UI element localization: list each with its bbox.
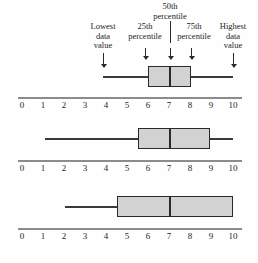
axis-1-tick-4: 4 xyxy=(104,100,109,111)
axis-2-tick-2: 2 xyxy=(62,163,67,174)
axis-1-tick-9: 9 xyxy=(209,100,214,111)
axis-3-tick-10: 10 xyxy=(229,231,238,242)
axis-2-tick-6: 6 xyxy=(146,163,151,174)
axis-line-2 xyxy=(18,160,242,162)
box-plot-1 xyxy=(0,64,258,90)
axis-2-tick-10: 10 xyxy=(229,163,238,174)
box-2 xyxy=(138,128,210,149)
axis-1-tick-5: 5 xyxy=(125,100,130,111)
axis-1-tick-1: 1 xyxy=(41,100,46,111)
axis-2-tick-7: 7 xyxy=(167,163,172,174)
arrow-75th-percentile xyxy=(191,48,192,59)
box-3 xyxy=(117,196,233,217)
axis-2-tick-1: 1 xyxy=(41,163,46,174)
axis-1-tick-8: 8 xyxy=(188,100,193,111)
axis-2-tick-8: 8 xyxy=(188,163,193,174)
axis-3-tick-9: 9 xyxy=(209,231,214,242)
box-plot-3 xyxy=(0,194,258,220)
axis-3-tick-7: 7 xyxy=(167,231,172,242)
box-plot-figure: 50th percentile Lowest data value 25th p… xyxy=(0,0,258,263)
axis-2-tick-3: 3 xyxy=(83,163,88,174)
axis-1-tick-0: 0 xyxy=(20,100,25,111)
axis-1-tick-2: 2 xyxy=(62,100,67,111)
axis-1: 0 1 2 3 4 5 6 7 8 9 10 xyxy=(0,97,258,115)
axis-1-tick-7: 7 xyxy=(167,100,172,111)
arrow-50th-percentile xyxy=(170,48,171,59)
axis-1-tick-10: 10 xyxy=(229,100,238,111)
axis-3-tick-6: 6 xyxy=(146,231,151,242)
axis-3-tick-0: 0 xyxy=(20,231,25,242)
whisker-right-2 xyxy=(210,138,233,140)
caption-divider-line xyxy=(170,21,171,43)
whisker-left-1 xyxy=(103,76,148,78)
arrow-25th-percentile xyxy=(145,48,146,59)
box-plot-2 xyxy=(0,126,258,152)
axis-3-tick-2: 2 xyxy=(62,231,67,242)
axis-3-tick-4: 4 xyxy=(104,231,109,242)
axis-3-tick-8: 8 xyxy=(188,231,193,242)
median-line-3 xyxy=(169,196,171,217)
median-line-1 xyxy=(169,66,171,87)
axis-3-tick-5: 5 xyxy=(125,231,130,242)
whisker-left-3 xyxy=(65,206,117,208)
annotation-25th-percentile: 25th percentile xyxy=(128,22,162,41)
axis-2: 0 1 2 3 4 5 6 7 8 9 10 xyxy=(0,160,258,178)
annotation-75th-percentile: 75th percentile xyxy=(177,22,211,41)
axis-2-tick-4: 4 xyxy=(104,163,109,174)
annotation-50th-line2: percentile xyxy=(153,12,187,22)
axis-line-1 xyxy=(18,97,242,99)
annotation-25th-line2: percentile xyxy=(128,32,162,42)
axis-3: 0 1 2 3 4 5 6 7 8 9 10 xyxy=(0,228,258,246)
annotation-75th-line2: percentile xyxy=(177,32,211,42)
annotation-highest-data-value: Highest data value xyxy=(220,22,246,51)
whisker-left-2 xyxy=(45,138,138,140)
annotation-highest-line3: value xyxy=(220,41,246,51)
median-line-2 xyxy=(169,128,171,149)
axis-3-tick-3: 3 xyxy=(83,231,88,242)
axis-1-tick-3: 3 xyxy=(83,100,88,111)
axis-2-tick-5: 5 xyxy=(125,163,130,174)
axis-3-tick-1: 1 xyxy=(41,231,46,242)
axis-2-tick-9: 9 xyxy=(209,163,214,174)
axis-2-tick-0: 0 xyxy=(20,163,25,174)
whisker-right-1 xyxy=(191,76,233,78)
axis-1-tick-6: 6 xyxy=(146,100,151,111)
annotation-lowest-line3: value xyxy=(90,41,115,51)
annotation-lowest-data-value: Lowest data value xyxy=(90,22,115,51)
annotation-50th-percentile: 50th percentile xyxy=(153,2,187,21)
axis-line-3 xyxy=(18,228,242,230)
